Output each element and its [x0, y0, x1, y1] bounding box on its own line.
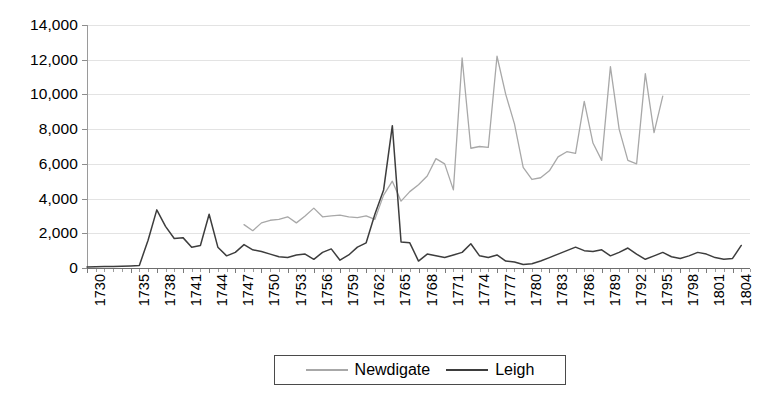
x-axis-tick-major: [131, 269, 132, 273]
x-axis-label: 1741: [189, 274, 203, 306]
legend-item-leigh: Leigh: [446, 361, 534, 379]
x-axis-tick-major: [445, 269, 446, 273]
x-axis-tick-minor: [741, 269, 742, 272]
x-axis-label: 1771: [451, 274, 465, 306]
x-axis-tick-minor: [541, 269, 542, 272]
x-axis-tick-minor: [462, 269, 463, 272]
y-axis-label: 8,000: [4, 121, 78, 136]
series-line-leigh: [87, 126, 741, 267]
x-axis-tick-major: [340, 269, 341, 273]
x-axis-tick-minor: [279, 269, 280, 272]
x-axis-tick-minor: [323, 269, 324, 272]
x-axis-tick-major: [288, 269, 289, 273]
x-axis-tick-major: [471, 269, 472, 273]
gridline: [87, 25, 750, 26]
x-axis-label: 1730: [93, 274, 107, 306]
y-axis-label: 6,000: [4, 156, 78, 171]
x-axis-tick-major: [654, 269, 655, 273]
x-axis-tick-major: [602, 269, 603, 273]
x-axis-tick-major: [706, 269, 707, 273]
x-axis-tick-minor: [410, 269, 411, 272]
x-axis-tick-minor: [488, 269, 489, 272]
x-axis-tick-minor: [113, 269, 114, 272]
x-axis-tick-minor: [610, 269, 611, 272]
x-axis-label: 1762: [372, 274, 386, 306]
x-axis-tick-minor: [218, 269, 219, 272]
x-axis-tick-minor: [637, 269, 638, 272]
x-axis-tick-minor: [514, 269, 515, 272]
x-axis-tick-minor: [558, 269, 559, 272]
x-axis-tick-major: [419, 269, 420, 273]
y-axis-label: 12,000: [4, 52, 78, 67]
x-axis-label: 1792: [634, 274, 648, 306]
x-axis-label: 1783: [555, 274, 569, 306]
x-axis-tick-minor: [619, 269, 620, 272]
x-axis-labels: 1730173517381741174417471750175317561759…: [0, 268, 766, 348]
x-axis-tick-major: [314, 269, 315, 273]
x-axis-tick-major: [523, 269, 524, 273]
x-axis-label: 1789: [608, 274, 622, 306]
gridline: [87, 233, 750, 234]
x-axis-tick-minor: [296, 269, 297, 272]
x-axis-label: 1774: [477, 274, 491, 306]
x-axis-tick-minor: [453, 269, 454, 272]
gridline: [87, 199, 750, 200]
x-axis-tick-major: [680, 269, 681, 273]
legend-label-newdigate: Newdigate: [355, 361, 431, 379]
x-axis-tick-major: [157, 269, 158, 273]
legend-swatch-newdigate: [306, 369, 348, 371]
x-axis-label: 1795: [660, 274, 674, 306]
x-axis-tick-minor: [427, 269, 428, 272]
x-axis-tick-minor: [384, 269, 385, 272]
x-axis-label: 1798: [686, 274, 700, 306]
x-axis-label: 1768: [425, 274, 439, 306]
x-axis-tick-minor: [139, 269, 140, 272]
y-axis-label: 14,000: [4, 17, 78, 32]
y-axis-label: 2,000: [4, 225, 78, 240]
x-axis-tick-minor: [331, 269, 332, 272]
x-axis-label: 1765: [398, 274, 412, 306]
x-axis-tick-minor: [750, 269, 751, 272]
line-chart: 14,00012,00010,0008,0006,0004,0002,0000 …: [0, 0, 766, 400]
x-axis-tick-minor: [584, 269, 585, 272]
x-axis-tick-minor: [567, 269, 568, 272]
x-axis-label: 1804: [739, 274, 753, 306]
x-axis-tick-minor: [357, 269, 358, 272]
legend-item-newdigate: Newdigate: [306, 361, 431, 379]
x-axis-tick-minor: [724, 269, 725, 272]
chart-legend: Newdigate Leigh: [274, 355, 566, 385]
x-axis-tick-major: [261, 269, 262, 273]
x-axis-label: 1747: [241, 274, 255, 306]
y-axis-line: [87, 25, 88, 268]
x-axis-tick-minor: [174, 269, 175, 272]
x-axis-tick-minor: [166, 269, 167, 272]
x-axis-label: 1756: [320, 274, 334, 306]
gridline: [87, 94, 750, 95]
x-axis-tick-major: [497, 269, 498, 273]
x-axis-label: 1801: [712, 274, 726, 306]
series-line-newdigate: [244, 56, 663, 230]
x-axis-tick-minor: [200, 269, 201, 272]
x-axis-tick-minor: [253, 269, 254, 272]
x-axis-label: 1780: [529, 274, 543, 306]
x-axis-tick-minor: [401, 269, 402, 272]
legend-swatch-leigh: [446, 369, 488, 371]
x-axis-label: 1753: [294, 274, 308, 306]
x-axis-tick-minor: [375, 269, 376, 272]
x-axis-tick-minor: [593, 269, 594, 272]
x-axis-tick-major: [628, 269, 629, 273]
x-axis-tick-minor: [122, 269, 123, 272]
x-axis-tick-minor: [305, 269, 306, 272]
x-axis-tick-major: [209, 269, 210, 273]
x-axis-tick-minor: [436, 269, 437, 272]
x-axis-tick-major: [366, 269, 367, 273]
x-axis-tick-minor: [148, 269, 149, 272]
x-axis-tick-minor: [349, 269, 350, 272]
y-axis-label: 10,000: [4, 86, 78, 101]
x-axis-tick-major: [733, 269, 734, 273]
x-axis-tick-major: [392, 269, 393, 273]
x-axis-tick-minor: [96, 269, 97, 272]
x-axis-tick-major: [549, 269, 550, 273]
y-axis-label: 4,000: [4, 191, 78, 206]
gridline: [87, 129, 750, 130]
